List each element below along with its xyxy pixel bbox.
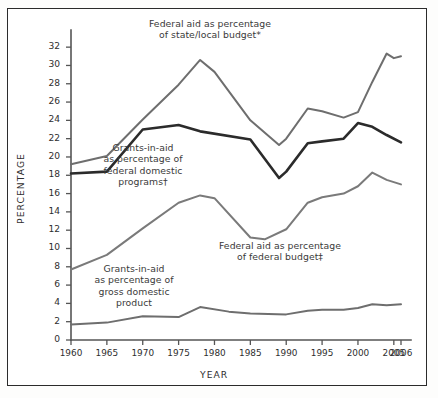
x-tick-label: 1980 [197,348,231,358]
line-chart-canvas [0,0,438,398]
annotation-line: of federal budget‡ [219,251,341,262]
x-tick-label: 1960 [54,348,88,358]
x-tick-label: 1985 [233,348,267,358]
x-tick-label: 2000 [341,348,375,358]
y-tick-label: 0 [44,334,60,344]
y-tick-label: 4 [44,297,60,307]
y-tick-label: 10 [44,242,60,252]
y-tick-label: 2 [44,316,60,326]
y-tick-label: 16 [44,188,60,198]
annotation-line: programs† [103,176,182,187]
annotation-line: Federal aid as percentage [219,240,341,251]
annotation-federal-domestic: Grants-in-aidas percentage offederal dom… [103,142,182,188]
y-tick-label: 8 [44,261,60,271]
y-tick-label: 30 [44,59,60,69]
x-tick-label: 1990 [269,348,303,358]
annotation-line: as percentage of [103,153,182,164]
annotation-federal-budget: Federal aid as percentageof federal budg… [219,240,341,263]
annotation-line: Grants-in-aid [94,263,173,274]
annotation-line: Federal aid as percentage [149,18,271,29]
x-tick-label: 1995 [305,348,339,358]
annotation-line: product [94,297,173,308]
annotation-line: gross domestic [94,286,173,297]
x-tick-label: 1970 [126,348,160,358]
annotation-gdp: Grants-in-aidas percentage ofgross domes… [94,263,173,309]
y-tick-label: 6 [44,279,60,289]
y-tick-label: 14 [44,206,60,216]
y-tick-label: 24 [44,114,60,124]
y-tick-label: 12 [44,224,60,234]
y-tick-label: 32 [44,41,60,51]
y-tick-label: 28 [44,78,60,88]
figure-container: PERCENTAGE YEAR 024681012141618202224262… [0,0,438,398]
x-tick-label: 1965 [90,348,124,358]
y-tick-label: 26 [44,96,60,106]
annotation-line: federal domestic [103,165,182,176]
annotation-line: of state/local budget* [149,29,271,40]
annotation-line: Grants-in-aid [103,142,182,153]
x-axis-title: YEAR [200,369,228,380]
x-tick-label: 1975 [162,348,196,358]
y-tick-label: 20 [44,151,60,161]
x-tick-label: 2006 [384,348,418,358]
annotation-line: as percentage of [94,274,173,285]
annotation-state-local: Federal aid as percentageof state/local … [149,18,271,41]
y-tick-label: 18 [44,169,60,179]
y-tick-label: 22 [44,133,60,143]
y-axis-title: PERCENTAGE [15,153,26,225]
